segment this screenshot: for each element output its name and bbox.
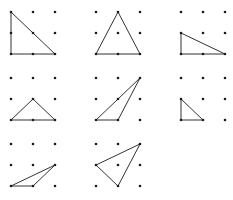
grid-dot <box>202 77 205 80</box>
grid-dot <box>139 164 142 167</box>
grid-dot <box>224 77 227 80</box>
dot-grid-panel-7 <box>10 143 57 188</box>
grid-dot <box>139 98 142 101</box>
grid-dot <box>32 164 35 167</box>
grid-dot <box>54 53 57 56</box>
grid-dot <box>202 119 205 122</box>
grid-dot <box>10 143 13 146</box>
grid-dot <box>139 77 142 80</box>
grid-dot <box>32 53 35 56</box>
grid-dot <box>117 98 120 101</box>
grid-dot <box>54 119 57 122</box>
grid-dot <box>10 53 13 56</box>
grid-dot <box>10 164 13 167</box>
grid-dot <box>95 143 98 146</box>
grid-dot <box>117 77 120 80</box>
triangle-6 <box>181 99 203 120</box>
grid-dot <box>117 119 120 122</box>
triangle-7 <box>11 165 55 186</box>
grid-dot <box>202 98 205 101</box>
grid-dot <box>202 32 205 35</box>
grid-dot <box>95 119 98 122</box>
dot-grid-panel-3 <box>180 11 227 56</box>
grid-dot <box>10 185 13 188</box>
dot-grid-panel-2 <box>95 11 142 56</box>
grid-dot <box>32 77 35 80</box>
grid-dot <box>54 77 57 80</box>
grid-dot <box>224 98 227 101</box>
grid-dot <box>32 32 35 35</box>
dot-grid-panel-4 <box>10 77 57 122</box>
grid-dot <box>139 143 142 146</box>
dot-grid-panel-8 <box>95 143 142 188</box>
grid-dot <box>54 98 57 101</box>
grid-dot <box>224 53 227 56</box>
grid-dot <box>180 98 183 101</box>
triangle-4 <box>11 99 55 120</box>
grid-dot <box>54 143 57 146</box>
grid-dot <box>95 185 98 188</box>
grid-dot <box>10 32 13 35</box>
dot-grid-panel-6 <box>180 77 227 122</box>
triangle-3 <box>181 33 225 54</box>
grid-dot <box>54 164 57 167</box>
grid-dot <box>224 11 227 14</box>
dot-grid-panel-5 <box>95 77 142 122</box>
grid-dot <box>95 164 98 167</box>
grid-dot <box>202 53 205 56</box>
grid-dot <box>95 98 98 101</box>
grid-dot <box>117 11 120 14</box>
grid-dot <box>54 185 57 188</box>
grid-dot <box>224 119 227 122</box>
grid-dot <box>139 185 142 188</box>
grid-dot <box>180 32 183 35</box>
grid-dot <box>95 53 98 56</box>
grid-dot <box>139 32 142 35</box>
grid-dot <box>10 77 13 80</box>
diagram-canvas <box>0 0 233 200</box>
grid-dot <box>10 119 13 122</box>
grid-dot <box>95 32 98 35</box>
grid-dot <box>32 11 35 14</box>
grid-dot <box>95 11 98 14</box>
grid-dot <box>54 32 57 35</box>
grid-dot <box>117 164 120 167</box>
grid-dot <box>180 53 183 56</box>
grid-dot <box>180 119 183 122</box>
grid-dot <box>10 98 13 101</box>
dot-grid-panel-1 <box>10 11 57 56</box>
grid-dot <box>10 11 13 14</box>
grid-dot <box>139 119 142 122</box>
grid-dot <box>139 53 142 56</box>
grid-dot <box>139 11 142 14</box>
geoboard-triangles-diagram <box>0 0 233 200</box>
grid-dot <box>202 11 205 14</box>
grid-dot <box>117 53 120 56</box>
grid-dot <box>32 143 35 146</box>
grid-dot <box>117 185 120 188</box>
grid-dot <box>117 32 120 35</box>
grid-dot <box>224 32 227 35</box>
grid-dot <box>32 185 35 188</box>
grid-dot <box>117 143 120 146</box>
grid-dot <box>54 11 57 14</box>
grid-dot <box>32 119 35 122</box>
grid-dot <box>95 77 98 80</box>
grid-dot <box>180 11 183 14</box>
grid-dot <box>180 77 183 80</box>
grid-dot <box>32 98 35 101</box>
